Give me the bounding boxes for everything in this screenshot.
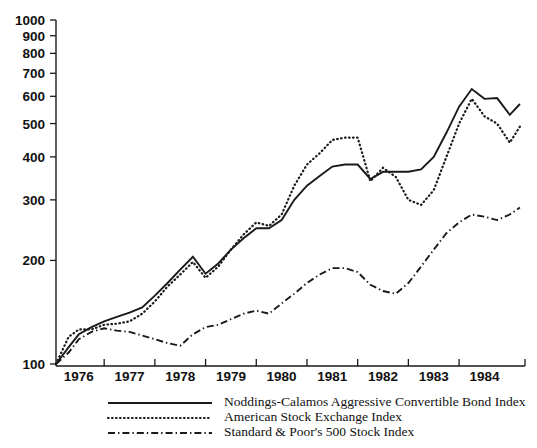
line-chart: 1000900800700600500400300200100 19761977… [0, 0, 537, 448]
y-tick-label: 600 [22, 89, 45, 104]
y-tick-label: 1000 [15, 13, 45, 28]
y-tick-label: 900 [22, 29, 45, 44]
y-tick-label: 800 [22, 46, 45, 61]
series-path-solid [56, 89, 520, 364]
series-path-dashdot [56, 208, 520, 364]
x-tick-label: 1982 [368, 369, 398, 384]
x-tick-label: 1978 [165, 369, 196, 384]
x-tick-label: 1980 [267, 369, 297, 384]
series-path-dotted [56, 99, 520, 364]
x-tick-label: 1979 [216, 369, 246, 384]
x-tick-label: 1977 [114, 369, 144, 384]
x-tick-label: 1981 [317, 369, 348, 384]
legend-label: Noddings-Calamos Aggressive Convertible … [224, 394, 526, 409]
y-tick-label: 200 [22, 253, 45, 268]
y-axis: 1000900800700600500400300200100 [15, 13, 56, 372]
y-tick-label: 400 [22, 150, 45, 165]
legend-label: American Stock Exchange Index [224, 409, 402, 424]
x-tick-label: 1984 [469, 369, 500, 384]
y-tick-label: 500 [22, 117, 45, 132]
x-tick-label: 1983 [419, 369, 450, 384]
chart-legend: Noddings-Calamos Aggressive Convertible … [108, 394, 526, 439]
y-tick-label: 100 [22, 357, 45, 372]
y-tick-label: 300 [22, 193, 45, 208]
y-tick-label: 700 [22, 66, 45, 81]
x-tick-label: 1976 [64, 369, 95, 384]
data-series-group [56, 89, 520, 364]
x-axis: 197619771978197919801981198219831984 [56, 359, 525, 384]
chart-container: 1000900800700600500400300200100 19761977… [0, 0, 537, 448]
legend-label: Standard & Poor's 500 Stock Index [224, 424, 415, 439]
